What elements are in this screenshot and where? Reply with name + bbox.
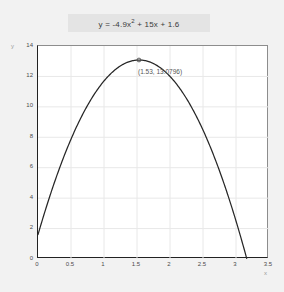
y-tick-label: 4 xyxy=(19,194,33,200)
quadratic-function-chart: y = -4.9x2 + 15x + 1.6 y x 02468101214 0… xyxy=(0,0,284,292)
y-tick-label: 8 xyxy=(19,133,33,139)
y-axis-label: y xyxy=(11,43,14,49)
x-tick-label: 2 xyxy=(161,261,177,267)
y-tick-label: 10 xyxy=(19,102,33,108)
y-tick-label: 12 xyxy=(19,72,33,78)
gridlines xyxy=(38,46,269,259)
chart-title-equation: y = -4.9x2 + 15x + 1.6 xyxy=(99,18,180,29)
y-tick-label: 14 xyxy=(19,42,33,48)
y-tick-label: 6 xyxy=(19,163,33,169)
plot-area xyxy=(37,45,268,258)
x-tick-label: 2.5 xyxy=(194,261,210,267)
x-tick-label: 1 xyxy=(95,261,111,267)
x-tick-label: 0.5 xyxy=(62,261,78,267)
x-tick-label: 3.5 xyxy=(260,261,276,267)
y-tick-label: 2 xyxy=(19,224,33,230)
equation-before: y = -4.9x xyxy=(99,19,132,28)
x-tick-label: 3 xyxy=(227,261,243,267)
vertex-annotation-label: (1.53, 13.0796) xyxy=(138,68,182,75)
x-tick-label: 0 xyxy=(29,261,45,267)
x-axis-label: x xyxy=(264,270,267,276)
equation-after: + 15x + 1.6 xyxy=(135,19,180,28)
chart-title-box: y = -4.9x2 + 15x + 1.6 xyxy=(68,14,210,32)
x-tick-label: 1.5 xyxy=(128,261,144,267)
plot-canvas xyxy=(38,46,269,259)
y-tick-label: 0 xyxy=(19,255,33,261)
